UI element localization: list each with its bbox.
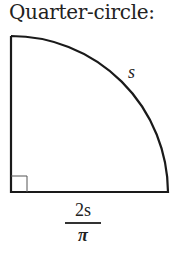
- fraction-denominator: π: [63, 225, 103, 245]
- arc-length-label: s: [128, 62, 135, 83]
- fraction-numerator: 2s: [63, 200, 103, 220]
- right-angle-marker: [11, 176, 27, 192]
- radius-label-fraction: 2s π: [63, 200, 103, 245]
- quarter-circle-outline: [11, 36, 168, 192]
- fraction-bar: [65, 222, 101, 224]
